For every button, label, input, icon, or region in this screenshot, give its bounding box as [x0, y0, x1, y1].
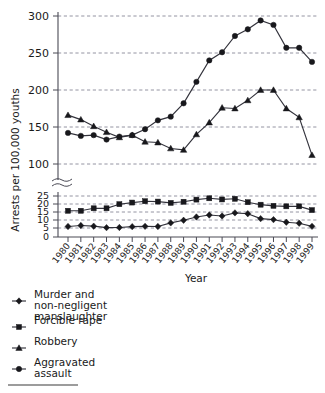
- data-point: [91, 132, 96, 137]
- crime-arrest-rates-chart: Arrests per 100,000 youths 300 250: [0, 0, 325, 393]
- data-point: [168, 200, 173, 205]
- data-point: [181, 199, 186, 204]
- data-point: [258, 18, 263, 23]
- legend-item-3: Aggravatedassault: [12, 356, 95, 379]
- legend-item-1: Forcible rape: [12, 314, 102, 330]
- series-line: [68, 20, 312, 139]
- series-aggravated-assault: [65, 18, 314, 143]
- chart-legend: Murder andnon-negligentmanslaughterForci…: [12, 288, 108, 379]
- data-point: [206, 212, 212, 218]
- data-point: [155, 118, 160, 123]
- data-point: [104, 137, 109, 142]
- data-point: [207, 58, 212, 63]
- upper-series-group: [65, 18, 315, 158]
- data-point: [219, 50, 224, 55]
- data-point: [91, 206, 96, 211]
- data-point: [310, 208, 315, 213]
- data-point: [129, 223, 135, 229]
- data-point: [194, 79, 199, 84]
- upper-panel: 300 250 200 150 100: [28, 10, 318, 186]
- data-point: [296, 114, 302, 120]
- lower-y-ticks: [53, 196, 58, 237]
- data-point: [271, 22, 276, 27]
- data-point: [296, 220, 302, 226]
- data-point: [104, 206, 109, 211]
- data-point: [181, 217, 187, 223]
- data-point: [130, 200, 135, 205]
- data-point: [232, 210, 238, 216]
- data-point: [309, 59, 314, 64]
- data-point: [296, 45, 301, 50]
- y-tick-label-0: 0: [43, 231, 49, 242]
- data-point: [219, 213, 225, 219]
- y-tick-label-100: 100: [28, 158, 49, 171]
- series-murder-and-non-negligent-manslaughter: [65, 210, 315, 231]
- x-axis-title: Year: [184, 272, 208, 284]
- series-forcible-rape: [66, 196, 315, 213]
- y-axis-title: Arrests per 100,000 youths: [9, 88, 21, 231]
- data-point: [90, 123, 96, 129]
- data-point: [258, 215, 264, 221]
- data-point: [297, 204, 302, 209]
- data-point: [66, 208, 71, 213]
- data-point: [117, 202, 122, 207]
- data-point: [168, 220, 174, 226]
- data-point: [193, 214, 199, 220]
- x-axis-ticks: [68, 237, 312, 242]
- data-point: [232, 33, 237, 38]
- data-point: [91, 223, 97, 229]
- data-point: [130, 132, 135, 137]
- lower-panel: 25 20 15 10 5 0 198019811982198319841985…: [37, 190, 318, 265]
- data-point: [155, 199, 160, 204]
- lower-y-tick-labels: 25 20 15 10 5 0: [37, 190, 49, 242]
- data-point: [168, 114, 173, 119]
- data-point: [245, 211, 251, 217]
- data-point: [220, 197, 225, 202]
- data-point: [65, 223, 71, 229]
- data-point: [65, 130, 70, 135]
- data-point: [65, 112, 71, 118]
- legend-marker-square-icon: [17, 325, 22, 330]
- chart-svg: Arrests per 100,000 youths 300 250: [0, 0, 325, 393]
- y-tick-label-200: 200: [28, 84, 49, 97]
- y-tick-label-150: 150: [28, 121, 49, 134]
- data-point: [142, 127, 147, 132]
- data-point: [258, 202, 263, 207]
- legend-label: assault: [34, 367, 72, 379]
- y-tick-label-300: 300: [28, 10, 49, 23]
- legend-marker-circle-icon: [16, 366, 21, 371]
- legend-marker-diamond-icon: [16, 298, 22, 304]
- y-tick-label-250: 250: [28, 47, 49, 60]
- data-point: [284, 204, 289, 209]
- data-point: [78, 208, 83, 213]
- data-point: [142, 223, 148, 229]
- data-point: [78, 133, 83, 138]
- data-point: [194, 197, 199, 202]
- upper-y-ticks: [53, 16, 58, 164]
- series-line: [68, 90, 312, 155]
- lower-series-group: [65, 196, 315, 231]
- data-point: [309, 152, 315, 158]
- data-point: [245, 27, 250, 32]
- data-point: [245, 200, 250, 205]
- data-point: [143, 199, 148, 204]
- data-point: [155, 223, 161, 229]
- x-axis-tick-labels: 1980198119821983198419851986198719881989…: [50, 241, 316, 265]
- upper-gridlines: [58, 16, 318, 164]
- data-point: [271, 203, 276, 208]
- data-point: [117, 134, 122, 139]
- legend-item-2: Robbery: [12, 335, 78, 350]
- data-point: [284, 45, 289, 50]
- legend-label: Robbery: [34, 335, 78, 347]
- data-point: [116, 224, 122, 230]
- data-point: [104, 224, 110, 230]
- data-point: [270, 216, 276, 222]
- data-point: [207, 196, 212, 201]
- upper-y-tick-labels: 300 250 200 150 100: [28, 10, 49, 171]
- data-point: [232, 196, 237, 201]
- series-robbery: [65, 87, 315, 158]
- axis-break-icon: [52, 179, 72, 187]
- data-point: [181, 101, 186, 106]
- legend-label: Forcible rape: [34, 314, 102, 326]
- data-point: [309, 223, 315, 229]
